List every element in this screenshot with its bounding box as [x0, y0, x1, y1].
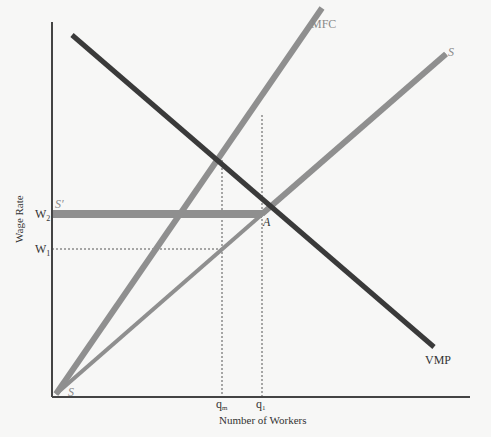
supply-curve-thick [262, 54, 446, 214]
supply-label: S [448, 45, 454, 59]
w2-tick-label: W2 [35, 207, 50, 223]
supply-prime-label: S′ [55, 197, 64, 211]
qm-tick-label: qm [216, 397, 228, 412]
y-axis-title: Wage Rate [13, 195, 25, 243]
diagram-canvas: MFC S S S′ VMP A W2 W1 qm q1 Number of W… [0, 0, 491, 437]
supply-origin-label: S [68, 385, 74, 399]
mfc-label: MFC [311, 17, 336, 31]
vmp-curve [72, 35, 434, 347]
w1-tick-label: W1 [35, 242, 50, 258]
point-a-label: A [262, 215, 271, 229]
vmp-label: VMP [425, 353, 451, 367]
x-axis-title: Number of Workers [219, 414, 307, 426]
q1-tick-label: q1 [256, 397, 266, 412]
mfc-curve [56, 8, 322, 394]
